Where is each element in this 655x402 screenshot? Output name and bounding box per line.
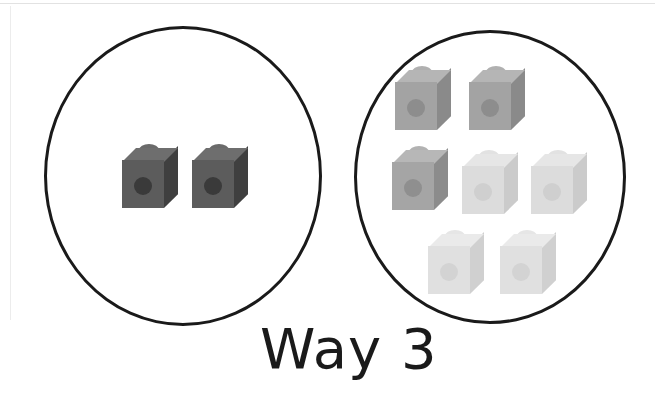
cube-l1[interactable] xyxy=(122,146,178,214)
cube-r1[interactable] xyxy=(395,68,451,136)
cube-hole-icon xyxy=(543,183,561,201)
cube-hole-icon xyxy=(474,183,492,201)
cube-hole-icon xyxy=(407,99,425,117)
cube-hole-icon xyxy=(404,179,422,197)
cube-l2[interactable] xyxy=(192,146,248,214)
cube-r2[interactable] xyxy=(469,68,525,136)
cube-hole-icon xyxy=(481,99,499,117)
cube-r5[interactable] xyxy=(531,152,587,220)
cube-hole-icon xyxy=(512,263,530,281)
cube-r4[interactable] xyxy=(462,152,518,220)
cube-r3[interactable] xyxy=(392,148,448,216)
worksheet-canvas: Way 3 xyxy=(0,0,655,402)
caption-label: Way 3 xyxy=(260,316,438,381)
cube-hole-icon xyxy=(204,177,222,195)
cube-hole-icon xyxy=(440,263,458,281)
cube-r7[interactable] xyxy=(500,232,556,300)
cube-hole-icon xyxy=(134,177,152,195)
cube-r6[interactable] xyxy=(428,232,484,300)
scan-artifact-left-rule xyxy=(10,6,11,320)
left-circle[interactable] xyxy=(44,26,322,326)
scan-artifact-top-rule xyxy=(0,3,655,4)
